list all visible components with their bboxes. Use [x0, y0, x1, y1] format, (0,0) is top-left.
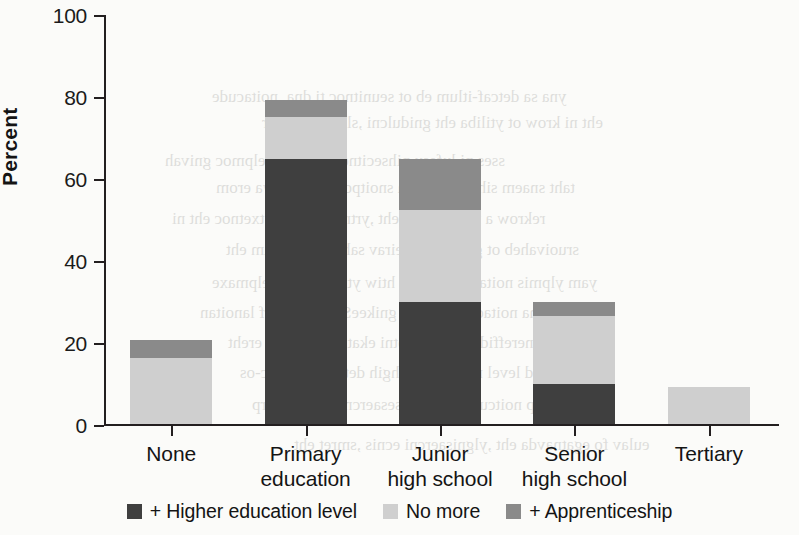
bar-segment: [130, 340, 212, 358]
bar-segment: [130, 358, 212, 425]
x-axis-category-label: Tertiary: [624, 441, 794, 466]
y-axis-line: [104, 15, 106, 426]
legend-swatch-icon: [506, 504, 521, 519]
bar-senior-high-school: [533, 302, 615, 425]
y-axis-tick: 40: [94, 261, 104, 263]
bar-segment: [265, 159, 347, 426]
bar-segment: [399, 159, 481, 211]
legend-swatch-icon: [383, 504, 398, 519]
bar-primary-education: [265, 100, 347, 425]
y-axis-tick: 80: [94, 97, 104, 99]
bar-none: [130, 340, 212, 425]
bar-segment: [533, 302, 615, 316]
y-axis-tick-label: 100: [53, 4, 87, 28]
legend-item: + Higher education level: [127, 500, 357, 523]
y-axis-tick-label: 60: [64, 168, 87, 192]
x-axis-tick: [709, 426, 711, 436]
x-axis-tick: [171, 426, 173, 436]
plot-area: [104, 15, 776, 425]
legend-label: + Apprenticeship: [529, 500, 672, 523]
stacked-bar-chart-figure: Percent 020406080100 NonePrimaryeducatio…: [0, 0, 799, 535]
bar-segment: [265, 117, 347, 159]
legend-label: No more: [406, 500, 480, 523]
y-axis-tick: 0: [94, 425, 104, 427]
bar-segment: [265, 100, 347, 117]
bar-segment: [533, 384, 615, 425]
category-label-line: Tertiary: [624, 441, 794, 466]
x-axis-tick: [306, 426, 308, 436]
y-axis-label: Percent: [0, 108, 22, 186]
y-axis-tick: 100: [94, 15, 104, 17]
legend-label: + Higher education level: [150, 500, 357, 523]
bar-segment: [668, 387, 750, 425]
bar-junior-high-school: [399, 159, 481, 425]
bar-tertiary: [668, 387, 750, 425]
x-axis-tick: [574, 426, 576, 436]
y-axis-tick-label: 40: [64, 250, 87, 274]
y-axis-tick-label: 0: [76, 414, 87, 438]
y-axis-tick: 20: [94, 343, 104, 345]
chart-legend: + Higher education levelNo more+ Apprent…: [0, 500, 799, 523]
y-axis-tick-label: 80: [64, 86, 87, 110]
y-axis-tick-label: 20: [64, 332, 87, 356]
y-axis-tick: 60: [94, 179, 104, 181]
x-axis-tick: [440, 426, 442, 436]
category-label-line: high school: [489, 466, 659, 491]
legend-item: + Apprenticeship: [506, 500, 672, 523]
bar-segment: [399, 210, 481, 302]
bar-segment: [533, 316, 615, 384]
legend-swatch-icon: [127, 504, 142, 519]
legend-item: No more: [383, 500, 480, 523]
bar-segment: [399, 302, 481, 425]
